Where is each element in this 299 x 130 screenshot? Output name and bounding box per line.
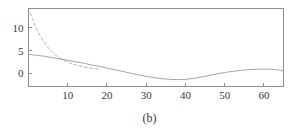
x-tick-label: 60 — [258, 89, 270, 101]
x-tick-label: 30 — [141, 89, 153, 101]
y-tick-label: 5 — [18, 45, 24, 57]
x-tick-label: 10 — [62, 89, 74, 101]
x-tick-label: 20 — [101, 89, 113, 101]
y-axis-tick-labels: 0510 — [13, 22, 25, 80]
chart-canvas: 102030405060 0510 (b) — [0, 0, 299, 130]
y-tick-label: 10 — [13, 22, 25, 34]
axis-tick-marks — [29, 28, 264, 87]
x-tick-label: 50 — [219, 89, 231, 101]
plot-frame — [29, 9, 284, 87]
figure-panel: 102030405060 0510 (b) — [0, 0, 299, 130]
y-tick-label: 0 — [18, 67, 24, 79]
axes-box — [29, 9, 284, 87]
series-line-solid-response — [29, 54, 284, 79]
figure-caption: (b) — [143, 111, 157, 125]
series-line-dashed-decay — [30, 13, 99, 69]
x-axis-tick-labels: 102030405060 — [62, 89, 270, 101]
x-tick-label: 40 — [180, 89, 192, 101]
data-series-layer — [29, 13, 284, 80]
